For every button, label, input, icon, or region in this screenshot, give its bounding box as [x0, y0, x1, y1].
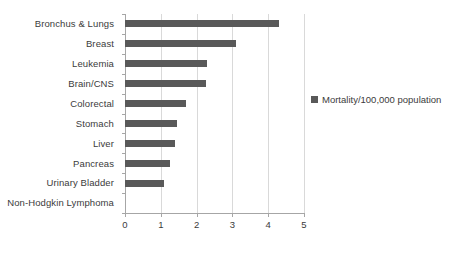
- bar: [125, 140, 175, 147]
- x-axis-tick-label: 2: [185, 219, 209, 230]
- x-axis-tick-label: 5: [292, 219, 316, 230]
- bar: [125, 20, 279, 27]
- bar-row: [125, 193, 304, 213]
- bar-row: [125, 34, 304, 54]
- x-axis-tick-label: 4: [256, 219, 280, 230]
- bar-row: [125, 153, 304, 173]
- legend-swatch-icon: [311, 96, 318, 103]
- bar-row: [125, 74, 304, 94]
- x-axis-tick-label: 3: [220, 219, 244, 230]
- category-label: Urinary Bladder: [0, 173, 118, 193]
- bar-row: [125, 14, 304, 34]
- bar-row: [125, 114, 304, 134]
- bar: [125, 180, 164, 187]
- category-label: Stomach: [0, 114, 118, 134]
- bar: [125, 60, 207, 67]
- category-label: Non-Hodgkin Lymphoma: [0, 193, 118, 213]
- x-axis-tick: [304, 213, 305, 217]
- plot-area: [125, 14, 304, 213]
- bar: [125, 160, 170, 167]
- legend-label: Mortality/100,000 population: [322, 95, 441, 105]
- bar-series: [125, 14, 304, 213]
- category-label: Leukemia: [0, 54, 118, 74]
- gridline: [304, 14, 305, 213]
- x-axis-tick: [268, 213, 269, 217]
- chart-screenshot: Bronchus & Lungs Breast Leukemia Brain/C…: [0, 0, 463, 253]
- bar: [125, 80, 206, 87]
- category-label: Bronchus & Lungs: [0, 14, 118, 34]
- x-axis-tick-label: 1: [149, 219, 173, 230]
- category-axis-labels: Bronchus & Lungs Breast Leukemia Brain/C…: [0, 14, 118, 213]
- x-axis-tick-label: 0: [113, 219, 137, 230]
- bar-row: [125, 173, 304, 193]
- horizontal-bar-chart: Bronchus & Lungs Breast Leukemia Brain/C…: [0, 0, 463, 253]
- category-label: Pancreas: [0, 153, 118, 173]
- category-label: Breast: [0, 34, 118, 54]
- x-axis-tick: [197, 213, 198, 217]
- legend: Mortality/100,000 population: [311, 95, 441, 105]
- category-label: Colorectal: [0, 94, 118, 114]
- bar: [125, 120, 177, 127]
- x-axis-tick: [125, 213, 126, 217]
- x-axis-tick: [232, 213, 233, 217]
- category-label: Brain/CNS: [0, 74, 118, 94]
- bar: [125, 100, 186, 107]
- x-axis-line: [125, 213, 305, 214]
- bar-row: [125, 133, 304, 153]
- x-axis-tick: [161, 213, 162, 217]
- bar-row: [125, 54, 304, 74]
- bar: [125, 40, 236, 47]
- category-label: Liver: [0, 133, 118, 153]
- bar-row: [125, 94, 304, 114]
